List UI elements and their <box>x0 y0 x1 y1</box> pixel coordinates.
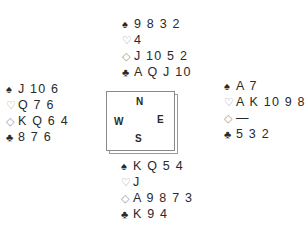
west-clubs: 8 7 6 <box>18 130 52 144</box>
south-spades-row: ♠K Q 5 4 <box>121 158 193 174</box>
club-icon: ♣ <box>122 64 134 80</box>
south-diamonds-row: ◇A 9 8 7 3 <box>121 190 193 206</box>
spade-icon: ♠ <box>224 78 236 94</box>
north-diamonds-row: ◇J 10 5 2 <box>122 48 192 64</box>
west-hearts-row: ♡Q 7 6 <box>6 97 69 113</box>
south-spades: K Q 5 4 <box>133 159 184 173</box>
north-spades: 9 8 3 2 <box>134 17 181 31</box>
east-hearts: A K 10 9 8 5 3 2 <box>236 95 305 109</box>
compass-east-label: E <box>157 114 164 125</box>
heart-icon: ♡ <box>224 94 236 110</box>
compass-north-label: N <box>136 96 143 107</box>
diamond-icon: ◇ <box>122 48 134 64</box>
west-diamonds: K Q 6 4 <box>18 114 69 128</box>
club-icon: ♣ <box>121 206 133 222</box>
south-hearts: J <box>133 175 140 189</box>
north-clubs: A Q J 10 <box>134 65 192 79</box>
east-clubs: 5 3 2 <box>236 127 270 141</box>
north-hearts: 4 <box>134 33 142 47</box>
east-spades: A 7 <box>236 79 258 93</box>
west-hearts: Q 7 6 <box>18 98 55 112</box>
north-hand: ♠9 8 3 2 ♡4 ◇J 10 5 2 ♣A Q J 10 <box>122 16 192 80</box>
north-hearts-row: ♡4 <box>122 32 192 48</box>
diamond-icon: ◇ <box>6 113 18 129</box>
west-spades: J 10 6 <box>18 82 59 96</box>
spade-icon: ♠ <box>122 16 134 32</box>
south-clubs: K 9 4 <box>133 207 168 221</box>
heart-icon: ♡ <box>122 32 134 48</box>
north-clubs-row: ♣A Q J 10 <box>122 64 192 80</box>
compass-west-label: W <box>114 116 123 127</box>
east-clubs-row: ♣5 3 2 <box>224 126 305 142</box>
south-diamonds: A 9 8 7 3 <box>133 191 193 205</box>
west-spades-row: ♠J 10 6 <box>6 81 69 97</box>
heart-icon: ♡ <box>121 174 133 190</box>
heart-icon: ♡ <box>6 97 18 113</box>
east-hand: ♠A 7 ♡A K 10 9 8 5 3 2 ◇— ♣5 3 2 <box>224 78 305 142</box>
compass-table: N W E S <box>106 91 175 151</box>
diamond-icon: ◇ <box>224 110 236 126</box>
east-diamonds: — <box>236 111 250 125</box>
compass-south-label: S <box>135 133 142 144</box>
club-icon: ♣ <box>6 129 18 145</box>
south-hearts-row: ♡J <box>121 174 193 190</box>
south-hand: ♠K Q 5 4 ♡J ◇A 9 8 7 3 ♣K 9 4 <box>121 158 193 222</box>
east-hearts-row: ♡A K 10 9 8 5 3 2 <box>224 94 305 110</box>
west-hand: ♠J 10 6 ♡Q 7 6 ◇K Q 6 4 ♣8 7 6 <box>6 81 69 145</box>
east-diamonds-row: ◇— <box>224 110 305 126</box>
west-clubs-row: ♣8 7 6 <box>6 129 69 145</box>
club-icon: ♣ <box>224 126 236 142</box>
diamond-icon: ◇ <box>121 190 133 206</box>
north-diamonds: J 10 5 2 <box>134 49 188 63</box>
east-spades-row: ♠A 7 <box>224 78 305 94</box>
spade-icon: ♠ <box>6 81 18 97</box>
west-diamonds-row: ◇K Q 6 4 <box>6 113 69 129</box>
spade-icon: ♠ <box>121 158 133 174</box>
north-spades-row: ♠9 8 3 2 <box>122 16 192 32</box>
south-clubs-row: ♣K 9 4 <box>121 206 193 222</box>
